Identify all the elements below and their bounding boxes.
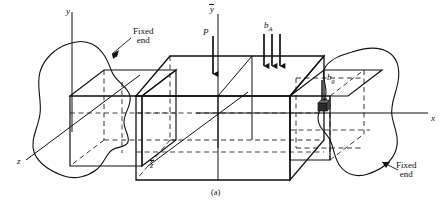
z-axis-label: z bbox=[17, 157, 21, 166]
z-bar-axis-line bbox=[148, 92, 248, 166]
beam-diagram bbox=[0, 0, 446, 207]
x-axis-label: x bbox=[431, 114, 435, 123]
fixed-end-right-line2: end bbox=[396, 170, 417, 179]
middle-block-hidden-edges bbox=[136, 56, 324, 180]
point-load-label: P bbox=[203, 28, 209, 37]
z-bar-overbar bbox=[149, 160, 154, 161]
z-bar-axis-label: z bbox=[150, 161, 154, 170]
right-block-top-face bbox=[290, 70, 382, 96]
differential-element-cube bbox=[318, 100, 330, 111]
middle-block-front-face bbox=[136, 96, 290, 180]
y-bar-overbar bbox=[209, 4, 214, 5]
y-bar-axis-label: y bbox=[210, 5, 214, 14]
distributed-load-subscript: A bbox=[269, 25, 273, 32]
distributed-load-arrows bbox=[264, 34, 280, 66]
fixed-end-left-leader bbox=[112, 38, 131, 54]
left-block-top-face bbox=[70, 70, 176, 96]
fixed-end-left-line2: end bbox=[133, 36, 154, 45]
left-block-construction-lines bbox=[70, 82, 176, 153]
z-axis-line bbox=[26, 75, 140, 160]
middle-block-section-plane bbox=[218, 56, 252, 180]
fixed-end-left-label: Fixed end bbox=[133, 27, 154, 46]
y-axis-label: y bbox=[66, 7, 70, 16]
body-force-label: bg bbox=[327, 73, 335, 85]
distributed-load-label: bA bbox=[264, 21, 272, 33]
figure-caption: (a) bbox=[211, 188, 220, 197]
fixed-end-right-label: Fixed end bbox=[396, 161, 417, 180]
left-block-front-face bbox=[70, 96, 142, 166]
body-force-subscript: g bbox=[332, 77, 335, 84]
